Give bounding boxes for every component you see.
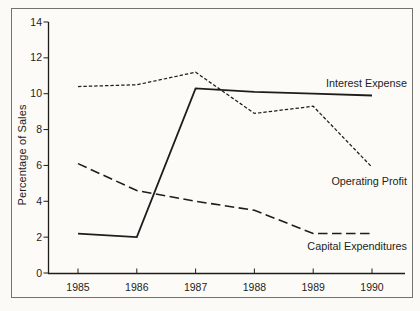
x-tick-label: 1988 [243,281,267,293]
y-tick-label: 0 [36,267,42,279]
series-label-operating-profit: Operating Profit [331,175,407,187]
y-tick-label: 6 [36,159,42,171]
x-tick-label: 1990 [360,281,384,293]
series-label-capital-expenditures: Capital Expenditures [307,240,407,252]
y-tick-label: 2 [36,231,42,243]
figure-border [12,9,413,298]
y-tick-label: 8 [36,123,42,135]
y-tick-label: 14 [30,16,42,28]
y-tick-label: 12 [30,51,42,63]
y-axis-title: Percentage of Sales [16,104,28,205]
y-tick-label: 10 [30,87,42,99]
x-tick-label: 1986 [125,281,149,293]
x-tick-label: 1985 [66,281,90,293]
series-label-interest-expense: Interest Expense [326,77,407,89]
y-tick-label: 4 [36,195,42,207]
x-tick-label: 1989 [302,281,326,293]
figure-page: 02468101214 198519861987198819891990 Per… [0,0,420,311]
line-chart: 02468101214 198519861987198819891990 Per… [0,0,420,311]
x-tick-label: 1987 [184,281,208,293]
